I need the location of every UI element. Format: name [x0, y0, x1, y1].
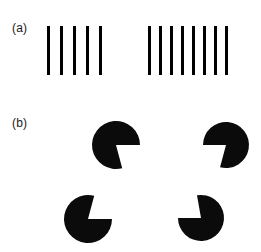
vertical-bar — [86, 26, 89, 75]
vertical-bar — [170, 26, 173, 75]
left-bar-group — [47, 26, 102, 75]
panel-a-label: (a) — [12, 22, 27, 34]
vertical-bar — [203, 26, 206, 75]
figure-root: (a) (b) — [0, 0, 261, 252]
vertical-bar — [214, 26, 217, 75]
pacman-disc-layer — [0, 110, 261, 252]
vertical-bar — [73, 26, 76, 75]
vertical-bar — [60, 26, 63, 75]
vertical-bar — [192, 26, 195, 75]
vertical-bar — [181, 26, 184, 75]
right-bar-group — [148, 26, 228, 75]
panel-b: (b) — [0, 110, 261, 252]
panel-a: (a) — [0, 0, 261, 100]
vertical-bar — [225, 26, 228, 75]
pacman-disc-bottom-left — [64, 195, 112, 243]
vertical-bar — [47, 26, 50, 75]
pacman-disc-bottom-right — [178, 195, 224, 241]
vertical-bar — [159, 26, 162, 75]
pacman-disc-top-right — [203, 122, 249, 168]
vertical-bar — [148, 26, 151, 75]
vertical-bar — [99, 26, 102, 75]
pacman-disc-top-left — [92, 121, 140, 169]
